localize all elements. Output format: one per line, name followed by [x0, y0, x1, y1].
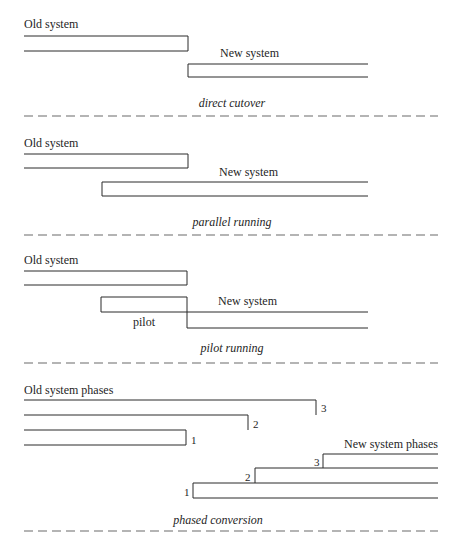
new-system-phases-label: New system phases — [344, 437, 438, 451]
old-system-phases-label: Old system phases — [24, 383, 114, 397]
old-phase-1-bar — [24, 430, 186, 445]
new-phase-3-bar — [323, 454, 438, 468]
section-caption: pilot running — [199, 341, 263, 355]
new-system-label: New system — [218, 294, 278, 308]
section-direct-cutover: Old system New system direct cutover — [24, 17, 438, 116]
old-system-bar — [24, 154, 188, 168]
new-system-label: New system — [219, 165, 279, 179]
conversion-strategies-diagram: Old system New system direct cutover Old… — [0, 0, 464, 547]
section-phased-conversion: Old system phases 3 2 1 New system phase… — [24, 383, 438, 531]
section-caption: direct cutover — [199, 96, 266, 110]
new-system-bar — [188, 64, 368, 77]
section-parallel-running: Old system New system parallel running — [24, 136, 438, 235]
old-system-label: Old system — [24, 136, 79, 150]
old-system-bar — [24, 271, 187, 285]
pilot-label: pilot — [133, 315, 156, 329]
new-phase-2-number: 2 — [245, 471, 251, 483]
old-phase-1-number: 1 — [191, 434, 197, 446]
old-system-label: Old system — [24, 17, 79, 31]
old-phase-2-number: 2 — [253, 418, 259, 430]
section-pilot-running: Old system New system pilot pilot runnin… — [24, 253, 438, 363]
section-caption: parallel running — [191, 215, 271, 229]
new-system-label: New system — [220, 46, 280, 60]
old-phase-3-number: 3 — [321, 402, 327, 414]
new-system-bar — [102, 182, 368, 196]
section-caption: phased conversion — [172, 513, 263, 527]
new-phase-2-bar — [255, 468, 438, 483]
old-system-bar — [24, 36, 188, 51]
old-phase-3-bar — [24, 400, 316, 415]
new-system-bar — [187, 312, 368, 328]
new-phase-3-number: 3 — [314, 456, 320, 468]
old-phase-2-bar — [24, 415, 248, 430]
new-phase-1-bar — [193, 483, 438, 498]
new-phase-1-number: 1 — [184, 486, 190, 498]
old-system-label: Old system — [24, 253, 79, 267]
